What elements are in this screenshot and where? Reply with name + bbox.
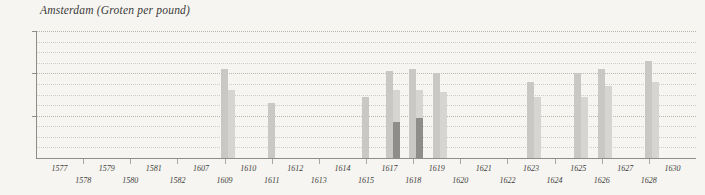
bar [386,71,393,158]
x-axis-tick-label: 1607 [193,164,209,173]
plot-area [36,31,696,158]
x-axis-tick-label: 1618 [405,176,421,185]
bar [409,69,416,158]
x-axis-tick-label: 1612 [287,164,303,173]
x-axis-tick [272,159,273,164]
x-axis-tick-label: 1621 [476,164,492,173]
chart-title: Amsterdam (Groten per pound) [40,4,190,16]
x-axis-tick-label: 1614 [334,164,350,173]
x-axis-tick [177,159,178,164]
chart-container: Amsterdam (Groten per pound) 102030 1577… [0,0,705,195]
bar [574,73,581,158]
bar [416,118,423,158]
x-axis-tick [130,159,131,164]
x-axis-tick [649,159,650,164]
x-axis-tick-label: 1615 [358,176,374,185]
bar [433,73,440,158]
x-axis-tick-label: 1627 [617,164,633,173]
x-axis-tick-label: 1623 [523,164,539,173]
x-axis-tick-label: 1624 [547,176,563,185]
x-axis-tick-label: 1609 [217,176,233,185]
bar [645,61,652,158]
y-axis-tick [32,73,36,74]
x-axis-tick [319,159,320,164]
x-axis-tick-label: 1611 [264,176,279,185]
bar [598,69,605,158]
x-axis-tick-label: 1630 [664,164,680,173]
bar [652,82,659,158]
x-axis-tick [366,159,367,164]
x-axis-tick-label: 1625 [570,164,586,173]
bar [440,92,447,158]
gridline [37,63,696,64]
x-axis-tick-label: 1580 [122,176,138,185]
x-axis-tick-label: 1620 [452,176,468,185]
bar [581,97,588,158]
x-axis-tick [83,159,84,164]
bar [605,86,612,158]
x-axis-tick-label: 1622 [499,176,515,185]
x-axis-tick-label: 1582 [169,176,185,185]
x-axis-tick-label: 1610 [240,164,256,173]
y-axis-tick [32,31,36,32]
gridline [37,42,696,43]
x-axis-tick [225,159,226,164]
bar [534,97,541,158]
x-axis-tick-label: 1581 [146,164,162,173]
x-axis-tick-label: 1578 [75,176,91,185]
x-axis-tick-label: 1619 [429,164,445,173]
x-axis-tick-label: 1579 [99,164,115,173]
bar [362,97,369,158]
bar [228,90,235,158]
x-axis-tick [413,159,414,164]
gridline [37,52,696,53]
x-axis-tick [460,159,461,164]
bar [393,122,400,158]
bar [221,69,228,158]
x-axis-tick [602,159,603,164]
bar [527,82,534,158]
x-axis-tick [507,159,508,164]
x-axis-tick [555,159,556,164]
gridline [37,31,696,32]
x-axis-tick-label: 1626 [594,176,610,185]
x-axis-tick-label: 1628 [641,176,657,185]
bar [268,103,275,158]
x-axis-tick-label: 1613 [311,176,327,185]
y-axis-tick [32,116,36,117]
x-axis-tick-label: 1617 [382,164,398,173]
x-axis-tick-label: 1577 [52,164,68,173]
